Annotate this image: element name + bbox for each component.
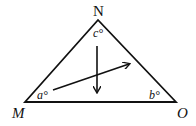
angle-label-b: b°: [149, 88, 160, 102]
rising-arrow: [53, 64, 129, 90]
vertex-label-o: O: [177, 105, 188, 121]
vertex-label-m: M: [11, 105, 26, 121]
angle-label-a: a°: [37, 88, 48, 102]
vertex-label-n: N: [93, 3, 104, 19]
angle-label-c: c°: [93, 26, 103, 40]
triangle-diagram: N M O c° a° b°: [0, 0, 196, 126]
